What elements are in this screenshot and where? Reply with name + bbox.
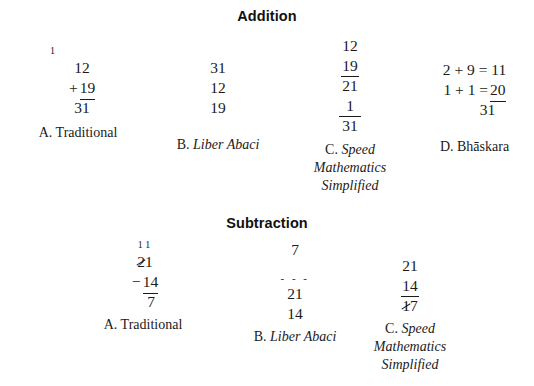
addition-speed-caption: C. Speed Mathematics Simplified (285, 141, 415, 195)
addition-traditional-sum: 31 (8, 98, 148, 118)
subtraction-speed-caption-line2: Mathematics (374, 339, 446, 354)
subtraction-traditional-caption-text: Traditional (121, 317, 183, 332)
addition-traditional-caption-letter: A. (39, 125, 53, 140)
addition-speed-line2: 19 (341, 56, 359, 77)
addition-heading: Addition (0, 8, 534, 24)
addition-bhaskara-line3: 31 (415, 100, 534, 120)
addition-liber-abaci-caption-text: Liber Abaci (193, 137, 259, 152)
addition-speed-caption-line1: Speed (341, 142, 374, 157)
addition-liber-abaci-line3: 19 (148, 98, 288, 118)
subtraction-traditional-minuend-rest: 1 (145, 253, 153, 270)
subtraction-traditional-minuend-struck-digit: 2 (137, 252, 145, 272)
subtraction-traditional-caption: A. Traditional (58, 316, 228, 334)
addition-bhaskara-line1: 2 + 9 = 11 (415, 60, 534, 80)
addition-speed-work: 12 19 21 1 31 (285, 36, 415, 136)
addition-liber-abaci-line2: 12 (148, 78, 288, 98)
subtraction-speed-caption-line1: Speed (401, 321, 434, 336)
subtraction-speed-caption: C. Speed Mathematics Simplified (345, 320, 475, 374)
subtraction-speed-line2: 14 (401, 276, 419, 297)
addition-traditional-caption: A. Traditional (8, 124, 148, 142)
addition-speed-line4: 1 (339, 96, 361, 117)
addition-traditional-caption-text: Traditional (56, 125, 118, 140)
addition-bhaskara-line2-value: 20 (490, 80, 506, 102)
subtraction-traditional-difference: 7 (58, 292, 228, 312)
subtraction-traditional-carry: 1 1 (58, 240, 228, 252)
addition-column-traditional: 1 12 +19 31 A. Traditional (8, 46, 148, 142)
subtraction-speed-result-struck-digit: 1 (402, 296, 410, 316)
subtraction-heading: Subtraction (0, 215, 534, 231)
subtraction-liber-abaci-caption-letter: B. (254, 329, 267, 344)
addition-bhaskara-caption-letter: D. (440, 139, 454, 154)
subtraction-traditional-subtrahend: 14 (143, 272, 159, 294)
addition-liber-abaci-caption-letter: B. (177, 137, 190, 152)
subtraction-speed-result-rest: 7 (410, 297, 418, 314)
addition-speed-caption-line3: Simplified (322, 178, 379, 193)
subtraction-traditional-caption-letter: A. (104, 317, 118, 332)
addition-traditional-operand2: 19 (80, 78, 96, 100)
addition-traditional-carry: 1 (8, 46, 148, 58)
addition-speed-line1: 12 (285, 36, 415, 56)
addition-bhaskara-line2-prefix: 1 + 1 = (443, 81, 488, 98)
subtraction-traditional-work: 1 1 21 −14 7 (58, 240, 228, 312)
addition-column-liber-abaci: 31 12 19 B. Liber Abaci (148, 58, 288, 154)
subtraction-speed-caption-letter: C. (385, 321, 398, 336)
addition-speed-line5: 31 (285, 116, 415, 136)
addition-speed-caption-line2: Mathematics (314, 160, 386, 175)
subtraction-speed-work: 21 14 17 (345, 240, 475, 316)
addition-liber-abaci-work: 31 12 19 (148, 58, 288, 118)
addition-traditional-plus-sign: + (69, 78, 78, 98)
subtraction-column-speed-mathematics: 21 14 17 C. Speed Mathematics Simplified (345, 240, 475, 374)
subtraction-speed-line1: 21 (345, 256, 475, 276)
addition-liber-abaci-line1: 31 (148, 58, 288, 78)
addition-speed-caption-letter: C. (325, 142, 338, 157)
addition-traditional-work: 1 12 +19 31 (8, 46, 148, 118)
addition-column-bhaskara: 2 + 9 = 11 1 + 1 =20 31 D. Bhāskara (415, 60, 534, 156)
arithmetic-methods-figure: Addition 1 12 +19 31 A. Traditional 31 1… (0, 0, 534, 386)
addition-traditional-operand1: 12 (8, 58, 148, 78)
subtraction-speed-caption-line3: Simplified (382, 357, 439, 372)
subtraction-traditional-minus-sign: − (132, 272, 141, 292)
addition-bhaskara-work: 2 + 9 = 11 1 + 1 =20 31 (415, 60, 534, 120)
subtraction-column-traditional: 1 1 21 −14 7 A. Traditional (58, 240, 228, 334)
addition-bhaskara-caption: D. Bhāskara (415, 138, 534, 156)
addition-speed-line3: 21 (285, 76, 415, 96)
addition-bhaskara-caption-text: Bhāskara (457, 139, 509, 154)
addition-column-speed-mathematics: 12 19 21 1 31 C. Speed Mathematics Simpl… (285, 36, 415, 195)
addition-liber-abaci-caption: B. Liber Abaci (148, 136, 288, 154)
subtraction-liber-abaci-caption-text: Liber Abaci (270, 329, 336, 344)
